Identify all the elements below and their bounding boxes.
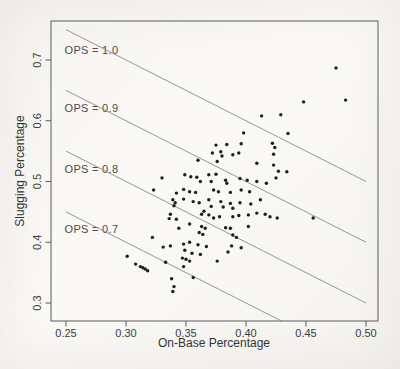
data-point (146, 269, 149, 272)
ops-scatter-chart: 0.250.300.350.400.450.50 0.30.40.50.60.7… (0, 0, 400, 369)
data-point (172, 204, 175, 207)
data-point (220, 154, 223, 157)
data-point (152, 188, 155, 191)
data-point (188, 241, 191, 244)
data-point (248, 190, 251, 193)
data-point (169, 213, 172, 216)
data-point (214, 143, 217, 146)
data-point (312, 216, 315, 219)
data-point (231, 153, 234, 156)
y-tick-label: 0.7 (31, 52, 43, 67)
data-point (211, 151, 214, 154)
data-point (219, 200, 222, 203)
ops-line-labels: OPS = 1.0OPS = 0.9OPS = 0.8OPS = 0.7 (65, 44, 119, 234)
data-point (255, 180, 258, 183)
y-tick-label: 0.6 (31, 113, 43, 128)
data-point (214, 173, 217, 176)
data-point (207, 213, 210, 216)
data-point (268, 215, 271, 218)
data-point (255, 211, 258, 214)
data-point (182, 197, 185, 200)
data-point (171, 198, 174, 201)
data-point (182, 188, 185, 191)
data-point (225, 182, 228, 185)
data-point (216, 160, 219, 163)
data-point (237, 214, 240, 217)
data-point (231, 215, 234, 218)
y-tick-label: 0.4 (31, 235, 43, 250)
data-point (174, 201, 177, 204)
data-point (231, 233, 234, 236)
data-point (277, 170, 280, 173)
data-point (188, 190, 191, 193)
data-point (217, 190, 220, 193)
data-point (171, 290, 174, 293)
data-point (230, 244, 233, 247)
data-point (199, 253, 202, 256)
data-point (219, 150, 222, 153)
data-point (286, 132, 289, 135)
data-point (204, 227, 207, 230)
data-point (225, 143, 228, 146)
data-point (279, 113, 282, 116)
data-point (247, 213, 250, 216)
y-axis-ticks: 0.30.40.50.60.7 (31, 52, 51, 310)
data-point (196, 159, 199, 162)
data-point (175, 218, 178, 221)
data-point (334, 66, 337, 69)
data-point (240, 188, 243, 191)
data-point (198, 201, 201, 204)
data-point (190, 252, 193, 255)
data-point (182, 265, 185, 268)
data-point (192, 200, 195, 203)
data-point (272, 153, 275, 156)
data-point (285, 170, 288, 173)
data-point (207, 173, 210, 176)
data-point (196, 243, 199, 246)
data-point (210, 205, 213, 208)
data-point (259, 198, 262, 201)
data-point (198, 231, 201, 234)
data-point (238, 201, 241, 204)
data-point (183, 173, 186, 176)
data-point (242, 131, 245, 134)
data-point (216, 259, 219, 262)
data-point (255, 162, 258, 165)
data-point (134, 262, 137, 265)
data-point (274, 176, 277, 179)
data-point (264, 213, 267, 216)
data-point (162, 245, 165, 248)
data-point (238, 177, 241, 180)
ops-line-label: OPS = 1.0 (65, 44, 119, 56)
data-point (151, 236, 154, 239)
data-point (200, 213, 203, 216)
data-point (182, 242, 185, 245)
data-point (199, 180, 202, 183)
data-point (189, 175, 192, 178)
data-point (181, 256, 184, 259)
data-point (260, 114, 263, 117)
data-point (126, 255, 129, 258)
data-point (271, 142, 274, 145)
data-point (229, 227, 232, 230)
data-point (172, 285, 175, 288)
x-tick-label: 0.25 (55, 327, 76, 339)
data-point (210, 180, 213, 183)
data-point (265, 182, 268, 185)
data-point (194, 191, 197, 194)
data-point (229, 191, 232, 194)
data-point (235, 236, 238, 239)
data-point (224, 226, 227, 229)
data-point (276, 216, 279, 219)
x-tick-label: 0.30 (115, 327, 136, 339)
data-point (188, 259, 191, 262)
data-point (188, 222, 191, 225)
data-point (229, 202, 232, 205)
data-point (344, 98, 347, 101)
data-point (237, 151, 240, 154)
data-point (224, 179, 227, 182)
data-point (183, 249, 186, 252)
data-point (200, 225, 203, 228)
data-point (302, 100, 305, 103)
scatterplot-figure: 0.250.300.350.400.450.50 0.30.40.50.60.7… (0, 0, 400, 369)
